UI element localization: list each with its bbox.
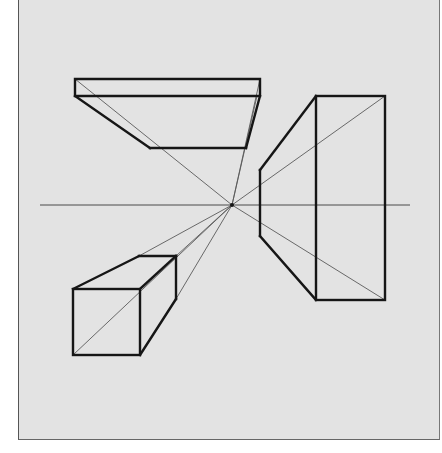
- perspective-drawing: [0, 0, 442, 453]
- right-box: [260, 96, 385, 300]
- vanishing-point: [230, 203, 234, 207]
- overhead-slab: [75, 79, 260, 148]
- construction-lines: [73, 79, 385, 355]
